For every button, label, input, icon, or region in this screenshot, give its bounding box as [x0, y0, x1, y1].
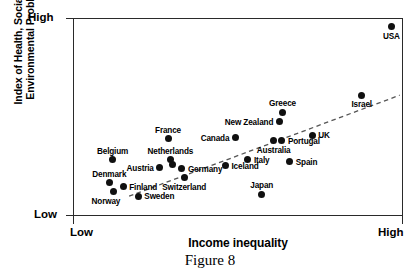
point-label-canada: Canada — [201, 133, 230, 142]
point-label-denmark: Denmark — [92, 169, 126, 178]
point-label-switzerland: Switzerland — [162, 182, 206, 191]
data-point-sweden[interactable] — [135, 193, 142, 200]
data-point-unlabeled-mid[interactable] — [169, 161, 176, 168]
point-label-greece: Greece — [269, 99, 296, 108]
figure-caption: Figure 8 — [0, 252, 420, 269]
figure-container: Index of Health, Social and Environmenta… — [0, 0, 420, 274]
point-label-italy: Italy — [254, 155, 270, 164]
point-label-netherlands: Netherlands — [148, 146, 194, 155]
point-label-finland: Finland — [129, 182, 157, 191]
point-label-austria: Austria — [127, 163, 154, 172]
point-label-france: France — [155, 125, 181, 134]
data-point-denmark[interactable] — [106, 179, 113, 186]
data-point-japan[interactable] — [258, 191, 265, 198]
x-axis-title: Income inequality — [73, 236, 403, 250]
x-axis-high-tick — [402, 216, 403, 224]
point-label-uk: UK — [318, 131, 330, 140]
point-label-belgium: Belgium — [97, 146, 128, 155]
point-label-new-zealand: New Zealand — [225, 117, 273, 126]
point-label-australia: Australia — [257, 145, 291, 154]
point-label-germany: Germany — [188, 164, 222, 173]
data-point-france[interactable] — [165, 135, 172, 142]
data-point-greece[interactable] — [279, 109, 286, 116]
point-label-norway: Norway — [92, 196, 121, 205]
point-label-spain: Spain — [296, 157, 318, 166]
x-axis-low-tick — [73, 216, 74, 224]
point-label-japan: Japan — [250, 181, 273, 190]
point-label-sweden: Sweden — [144, 192, 174, 201]
point-label-israel: Israel — [352, 100, 373, 109]
data-point-israel[interactable] — [358, 92, 365, 99]
point-label-usa: USA — [383, 31, 400, 40]
point-label-portugal: Portugal — [288, 136, 320, 145]
data-point-finland[interactable] — [120, 183, 127, 190]
